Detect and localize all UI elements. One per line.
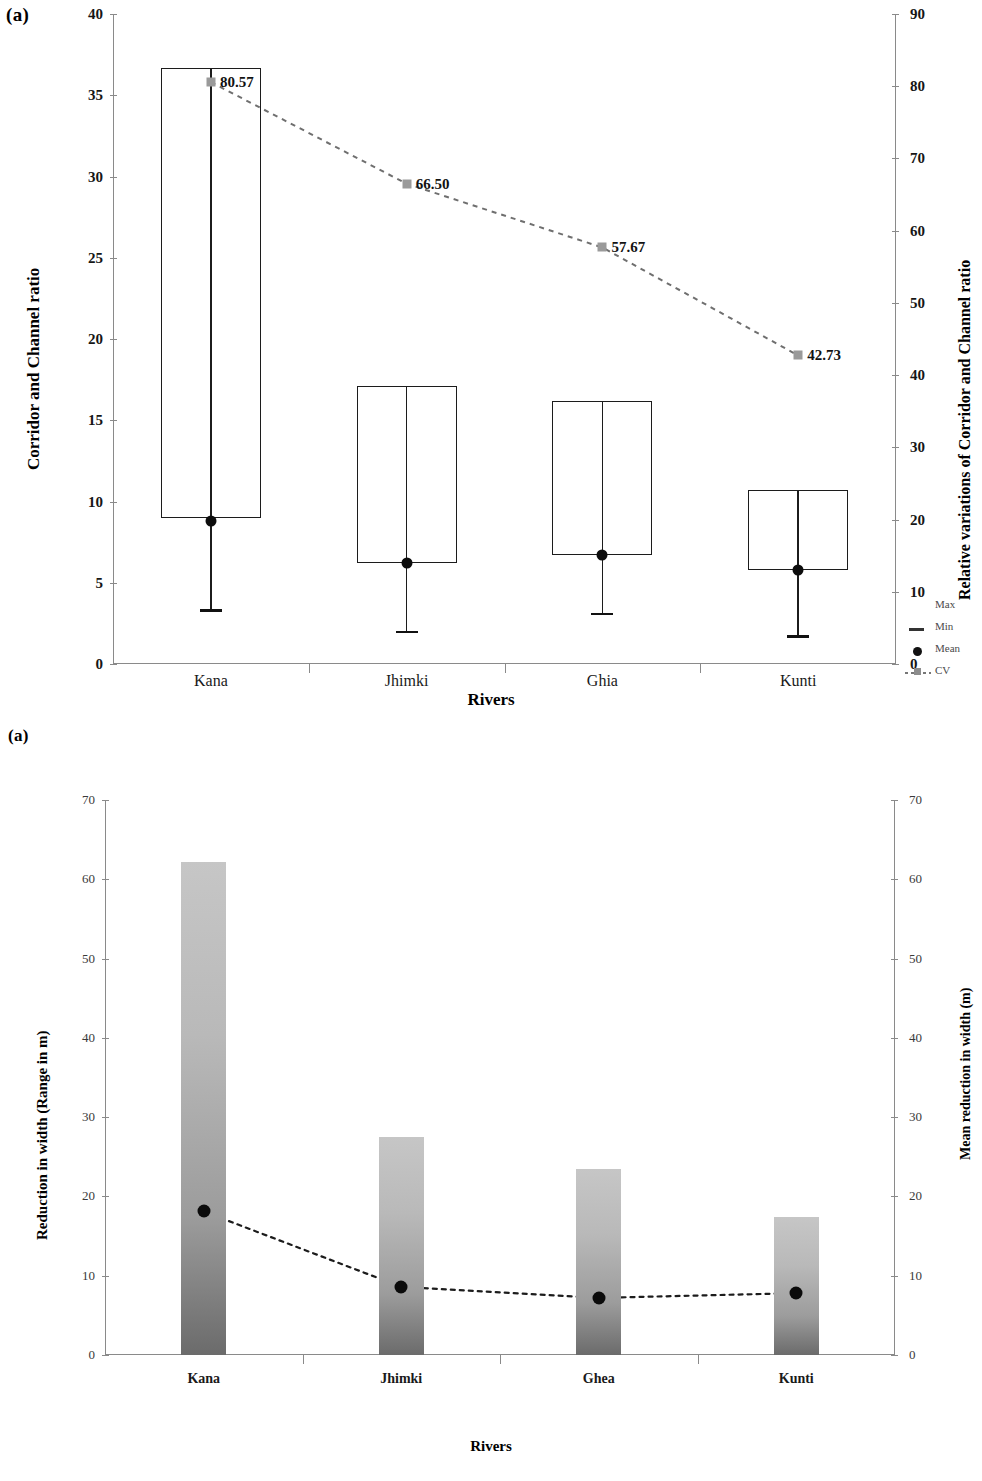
chart-a-right-tick xyxy=(892,14,899,15)
cv-value-label: 57.67 xyxy=(611,239,645,256)
chart-b-category-tick xyxy=(500,1355,501,1364)
chart-panel-a: (a) Corridor and Channel ratio Relative … xyxy=(0,0,982,730)
chart-a-left-tick-label: 20 xyxy=(51,331,103,348)
chart-b-right-tick xyxy=(891,1038,898,1039)
chart-b-category-label: Kunti xyxy=(779,1371,814,1387)
legend-label-min: Min xyxy=(935,620,953,632)
chart-b-left-tick xyxy=(102,800,109,801)
chart-b-y-axis-right-title: Mean reduction in width (m) xyxy=(958,988,974,1160)
chart-b-left-tick-label: 30 xyxy=(47,1109,95,1125)
mean-dot xyxy=(401,558,412,569)
chart-b-category-label: Kana xyxy=(187,1371,220,1387)
chart-a-category-tick xyxy=(309,664,310,673)
chart-a-category-label: Kunti xyxy=(780,672,816,690)
chart-a-right-tick-label: 80 xyxy=(910,78,958,95)
range-bar xyxy=(181,862,226,1355)
cv-value-label: 80.57 xyxy=(220,74,254,91)
chart-a-plot-area: 0510152025303540 0102030405060708090 80.… xyxy=(113,14,896,664)
chart-a-left-tick-label: 40 xyxy=(51,6,103,23)
chart-b-right-tick xyxy=(891,1117,898,1118)
chart-a-left-tick-label: 30 xyxy=(51,168,103,185)
chart-b-left-tick-label: 70 xyxy=(47,792,95,808)
cv-marker xyxy=(402,179,411,188)
chart-a-right-tick xyxy=(892,375,899,376)
chart-a-left-tick xyxy=(110,664,117,665)
chart-a-left-tick-label: 0 xyxy=(51,656,103,673)
chart-a-right-tick xyxy=(892,231,899,232)
box-center-line xyxy=(210,68,212,518)
chart-a-left-tick-label: 35 xyxy=(51,87,103,104)
chart-a-legend: Max Min Mean CV xyxy=(905,596,982,684)
chart-a-right-tick-label: 30 xyxy=(910,439,958,456)
chart-a-category-label: Ghia xyxy=(587,672,618,690)
legend-item-max: Max xyxy=(905,596,982,618)
legend-item-cv: CV xyxy=(905,662,982,684)
legend-label-mean: Mean xyxy=(935,642,960,654)
chart-a-left-tick xyxy=(110,420,117,421)
chart-b-right-tick-label: 20 xyxy=(909,1188,953,1204)
chart-a-left-tick xyxy=(110,502,117,503)
chart-b-right-tick-label: 30 xyxy=(909,1109,953,1125)
chart-b-left-tick xyxy=(102,879,109,880)
box-outline-icon xyxy=(905,596,931,618)
chart-b-left-axis-line xyxy=(105,800,106,1355)
chart-b-y-axis-left-title: Reduction in width (Range in m) xyxy=(34,1030,51,1240)
chart-a-right-tick xyxy=(892,592,899,593)
chart-b-category-tick xyxy=(303,1355,304,1364)
chart-a-right-tick xyxy=(892,158,899,159)
chart-b-x-axis-title: Rivers xyxy=(0,1438,982,1455)
legend-item-min: Min xyxy=(905,618,982,640)
chart-a-y-axis-left-title: Corridor and Channel ratio xyxy=(24,268,44,470)
chart-b-right-tick-label: 0 xyxy=(909,1347,953,1363)
chart-a-left-tick xyxy=(110,95,117,96)
chart-b-category-label: Jhimki xyxy=(380,1371,422,1387)
chart-a-category-tick xyxy=(505,664,506,673)
legend-label-max: Max xyxy=(935,598,955,610)
mean-dot xyxy=(597,550,608,561)
dashed-line-square-icon xyxy=(905,662,931,684)
chart-b-right-tick-label: 60 xyxy=(909,871,953,887)
min-whisker-cap xyxy=(396,631,418,634)
chart-b-right-tick-label: 10 xyxy=(909,1268,953,1284)
chart-a-left-tick xyxy=(110,339,117,340)
chart-a-category-label: Kana xyxy=(194,672,228,690)
chart-a-right-tick-label: 50 xyxy=(910,294,958,311)
chart-b-plot-area: 010203040506070 010203040506070 xyxy=(105,800,895,1355)
chart-b-left-tick-label: 60 xyxy=(47,871,95,887)
chart-a-left-tick xyxy=(110,14,117,15)
min-whisker xyxy=(210,518,212,611)
cv-value-label: 66.50 xyxy=(416,175,450,192)
chart-b-left-tick xyxy=(102,1117,109,1118)
box-center-line xyxy=(602,401,604,555)
chart-b-right-tick xyxy=(891,1196,898,1197)
chart-a-right-tick-label: 70 xyxy=(910,150,958,167)
min-whisker xyxy=(602,555,604,614)
mean-value-dot xyxy=(790,1287,803,1300)
chart-b-left-tick xyxy=(102,959,109,960)
chart-b-right-tick xyxy=(891,879,898,880)
chart-b-right-axis-line xyxy=(894,800,895,1355)
chart-a-right-tick xyxy=(892,664,899,665)
chart-b-category-label: Ghea xyxy=(583,1371,615,1387)
min-whisker-cap xyxy=(200,609,222,612)
chart-b-right-tick-label: 50 xyxy=(909,951,953,967)
cv-marker xyxy=(794,351,803,360)
min-whisker xyxy=(406,563,408,631)
chart-b-right-tick xyxy=(891,800,898,801)
chart-a-left-tick-label: 5 xyxy=(51,574,103,591)
mean-value-dot xyxy=(592,1291,605,1304)
chart-b-right-tick xyxy=(891,1276,898,1277)
chart-b-right-tick xyxy=(891,959,898,960)
box-center-line xyxy=(797,490,799,570)
chart-a-left-tick xyxy=(110,258,117,259)
chart-a-x-axis-title: Rivers xyxy=(0,690,982,710)
chart-a-right-axis-line xyxy=(895,14,896,664)
chart-a-left-tick-label: 15 xyxy=(51,412,103,429)
cv-value-label: 42.73 xyxy=(807,347,841,364)
mean-value-dot xyxy=(197,1205,210,1218)
box-center-line xyxy=(406,386,408,563)
chart-b-left-tick xyxy=(102,1355,109,1356)
chart-b-left-tick xyxy=(102,1038,109,1039)
mean-dot xyxy=(793,564,804,575)
panel-b-tag: (a) xyxy=(8,726,29,746)
